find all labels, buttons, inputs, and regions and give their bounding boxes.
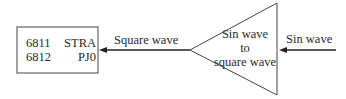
box-row-1-right: STRA — [64, 36, 96, 50]
diagram: 6811 STRA 6812 PJ0 Sin wave to square wa… — [0, 0, 346, 99]
converter-line-1: Sin wave — [222, 27, 269, 41]
box-row-1-left: 6811 — [26, 36, 51, 50]
output-arrowhead-icon — [99, 47, 107, 53]
output-label: Square wave — [114, 33, 179, 47]
box-row-2-left: 6812 — [26, 50, 51, 64]
converter-line-2: to — [240, 41, 250, 55]
converter-triangle — [190, 3, 277, 95]
input-label: Sin wave — [286, 32, 333, 46]
converter-line-3: square wave — [214, 55, 277, 69]
box-row-2-right: PJ0 — [78, 50, 96, 64]
input-arrowhead-icon — [279, 47, 287, 53]
